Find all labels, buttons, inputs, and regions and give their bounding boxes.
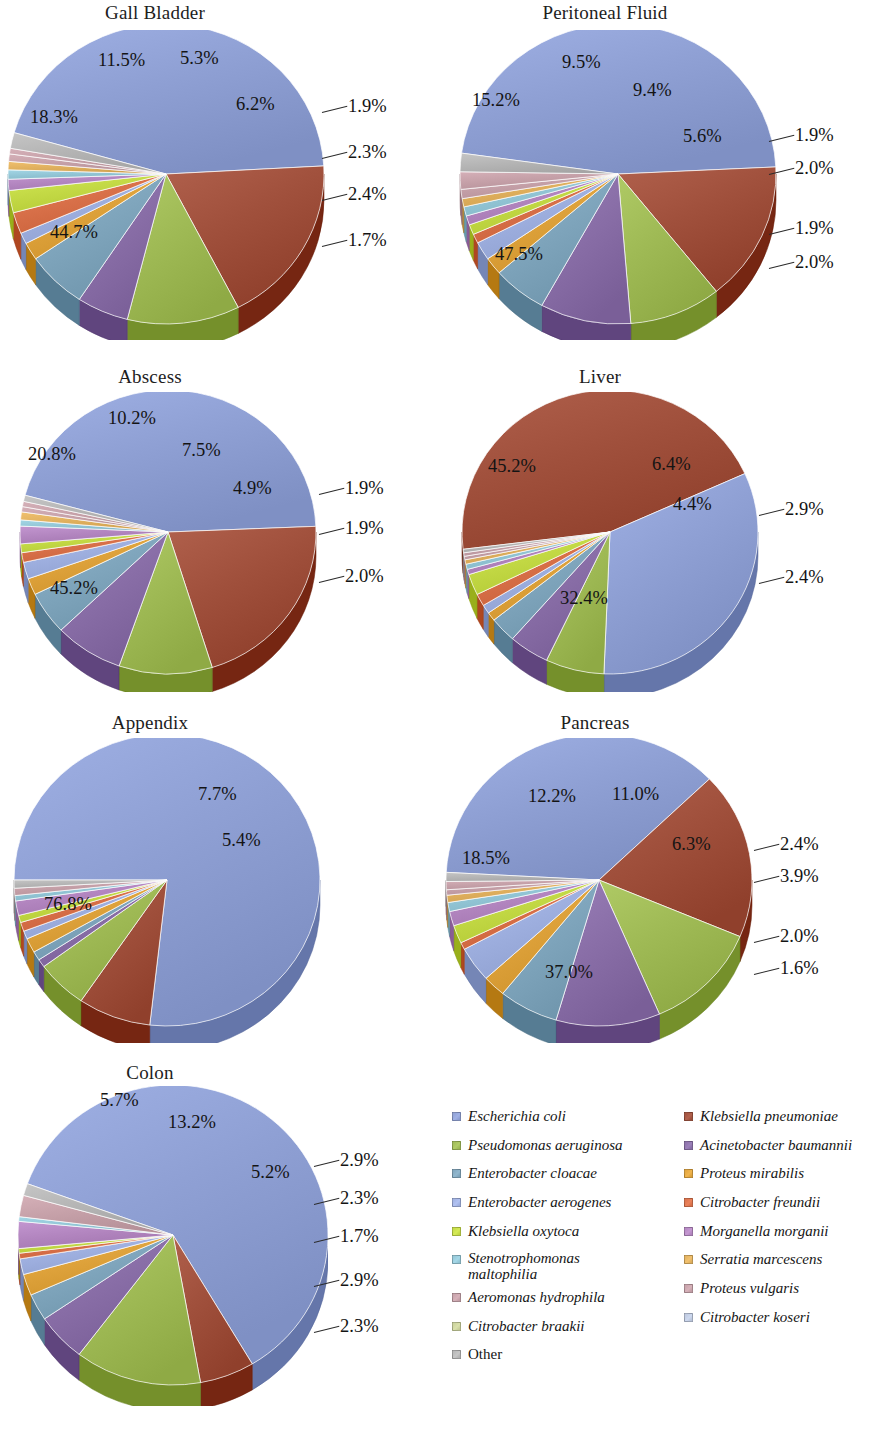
pie-svg-appendix (12, 738, 322, 1043)
chart-peritoneal-fluid: Peritoneal Fluid 9.5%9.4%15.2%5.6%1.9%2.… (440, 2, 890, 357)
legend-item[interactable]: Klebsiella oxytoca (452, 1223, 684, 1239)
slice-percent-label: 10.2% (108, 408, 156, 429)
pie-top-faces (446, 738, 752, 1026)
legend-item[interactable]: Serratia marcescens (684, 1251, 890, 1267)
leader-line (754, 844, 779, 851)
slice-percent-label: 37.0% (545, 962, 593, 983)
legend-item[interactable]: Other (452, 1346, 684, 1362)
slice-percent-label: 12.2% (528, 786, 576, 807)
slice-percent-label: 2.4% (785, 567, 824, 588)
legend-item[interactable]: Acinetobacter baumannii (684, 1137, 890, 1153)
legend-item[interactable]: Morganella morganii (684, 1223, 890, 1239)
legend-swatch-icon (452, 1255, 461, 1264)
pie-svg-liver (460, 392, 760, 692)
slice-percent-label: 3.9% (780, 866, 819, 887)
legend-item[interactable]: Stenotrophomonasmaltophilia (452, 1251, 684, 1283)
slice-percent-label: 1.9% (348, 96, 387, 117)
pie-gall-bladder (6, 30, 326, 340)
slice-percent-label: 2.0% (345, 566, 384, 587)
slice-percent-label: 2.9% (340, 1270, 379, 1291)
legend-item[interactable]: Enterobacter cloacae (452, 1165, 684, 1181)
slice-percent-label: 2.3% (340, 1188, 379, 1209)
chart-appendix: Appendix 7.7%5.4%76.8% (0, 712, 430, 1062)
slice-percent-label: 9.5% (562, 52, 601, 73)
legend-swatch-icon (452, 1141, 461, 1150)
legend-swatch-icon (452, 1169, 461, 1178)
legend-column-right: Klebsiella pneumoniaeAcinetobacter bauma… (684, 1108, 890, 1338)
slice-percent-label: 2.9% (785, 499, 824, 520)
legend-item[interactable]: Klebsiella pneumoniae (684, 1108, 890, 1124)
slice-percent-label: 2.4% (780, 834, 819, 855)
legend-label: Serratia marcescens (700, 1251, 822, 1267)
chart-colon: Colon 5.7%13.2%5.2%2.9%2.3%1.7%2.9%2.3% (0, 1062, 430, 1430)
legend-item[interactable]: Citrobacter braakii (452, 1318, 684, 1334)
slice-percent-label: 1.9% (345, 518, 384, 539)
slice-percent-label: 6.4% (652, 454, 691, 475)
pie-svg-colon (18, 1086, 328, 1406)
legend-item[interactable]: Proteus mirabilis (684, 1165, 890, 1181)
legend-item[interactable]: Enterobacter aerogenes (452, 1194, 684, 1210)
slice-percent-label: 5.3% (180, 48, 219, 69)
legend-label: Citrobacter freundii (700, 1194, 820, 1210)
chart-title-peritoneal-fluid: Peritoneal Fluid (440, 2, 770, 24)
slice-percent-label: 6.3% (672, 834, 711, 855)
pie-svg-abscess (18, 392, 318, 692)
leader-line (759, 509, 784, 516)
legend-label: Escherichia coli (468, 1108, 566, 1124)
slice-percent-label: 47.5% (495, 244, 543, 265)
legend-item[interactable]: Pseudomonas aeruginosa (452, 1137, 684, 1153)
legend-swatch-icon (684, 1255, 693, 1264)
slice-percent-label: 1.9% (345, 478, 384, 499)
legend-label: Enterobacter cloacae (468, 1165, 597, 1181)
leader-line (754, 968, 779, 975)
legend-label: Stenotrophomonasmaltophilia (468, 1251, 580, 1283)
legend-swatch-icon (452, 1198, 461, 1207)
leader-line (319, 576, 344, 583)
legend-swatch-icon (684, 1112, 693, 1121)
legend-column-left: Escherichia coliPseudomonas aeruginosaEn… (452, 1108, 684, 1375)
figure-canvas: Gall Bladder 11.5%5.3%6.2%1.9%18.3%2.3%2… (0, 0, 890, 1430)
legend-item[interactable]: Proteus vulgaris (684, 1280, 890, 1296)
slice-percent-label: 2.0% (795, 158, 834, 179)
pie-peritoneal-fluid (458, 30, 778, 340)
legend-swatch-icon (684, 1313, 693, 1322)
leader-line (759, 577, 784, 584)
pie-svg-gall-bladder (6, 30, 326, 340)
chart-title-abscess: Abscess (0, 366, 300, 388)
slice-percent-label: 4.9% (233, 478, 272, 499)
slice-percent-label: 5.7% (100, 1090, 139, 1111)
legend: Escherichia coliPseudomonas aeruginosaEn… (452, 1108, 890, 1408)
slice-percent-label: 1.9% (795, 125, 834, 146)
pie-abscess (18, 392, 318, 692)
slice-percent-label: 18.3% (30, 107, 78, 128)
slice-percent-label: 11.5% (98, 50, 145, 71)
legend-item[interactable]: Escherichia coli (452, 1108, 684, 1124)
pie-top-faces (14, 738, 320, 1026)
chart-title-pancreas: Pancreas (440, 712, 750, 734)
slice-percent-label: 1.6% (780, 958, 819, 979)
slice-percent-label: 2.9% (340, 1150, 379, 1171)
legend-swatch-icon (452, 1112, 461, 1121)
legend-label: Morganella morganii (700, 1223, 828, 1239)
leader-line (319, 528, 344, 535)
legend-item[interactable]: Citrobacter koseri (684, 1309, 890, 1325)
legend-label: Proteus mirabilis (700, 1165, 804, 1181)
legend-item[interactable]: Aeromonas hydrophila (452, 1289, 684, 1305)
legend-swatch-icon (452, 1293, 461, 1302)
slice-percent-label: 2.3% (340, 1316, 379, 1337)
chart-abscess: Abscess 10.2%7.5%20.8%4.9%1.9%1.9%2.0%45… (0, 366, 430, 711)
slice-percent-label: 7.7% (198, 784, 237, 805)
legend-item[interactable]: Citrobacter freundii (684, 1194, 890, 1210)
legend-swatch-icon (452, 1227, 461, 1236)
legend-label: Proteus vulgaris (700, 1280, 799, 1296)
chart-gall-bladder: Gall Bladder 11.5%5.3%6.2%1.9%18.3%2.3%2… (0, 2, 430, 357)
legend-label: Klebsiella pneumoniae (700, 1108, 838, 1124)
slice-percent-label: 2.4% (348, 184, 387, 205)
pie-colon (18, 1086, 328, 1406)
pie-pancreas (444, 738, 754, 1043)
legend-label: Klebsiella oxytoca (468, 1223, 579, 1239)
slice-percent-label: 5.6% (683, 126, 722, 147)
slice-percent-label: 4.4% (673, 494, 712, 515)
chart-title-gall-bladder: Gall Bladder (0, 2, 310, 24)
legend-label: Enterobacter aerogenes (468, 1194, 611, 1210)
